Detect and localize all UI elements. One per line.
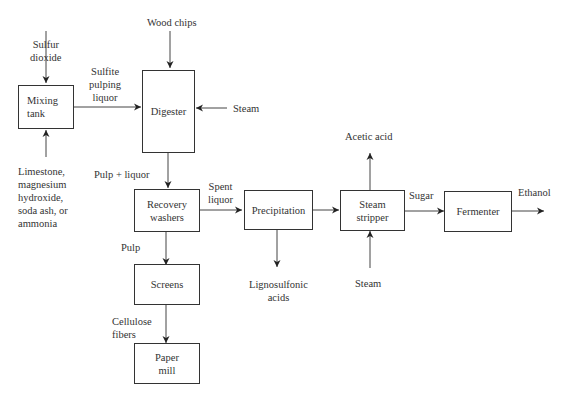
paper-mill-box: Paper mill (134, 343, 200, 384)
steam-stripper-input-label: Steam (355, 277, 381, 290)
steam-digester-label: Steam (233, 102, 259, 115)
digester-box: Digester (142, 70, 195, 153)
sulfite-liquor-label: Sulfite pulping liquor (89, 65, 121, 104)
pulp-label: Pulp (121, 241, 140, 254)
sugar-label: Sugar (409, 189, 434, 202)
precipitation-box: Precipitation (244, 190, 313, 230)
fermenter-box: Fermenter (444, 191, 512, 232)
recovery-washers-box: Recovery washers (134, 189, 200, 232)
spent-liquor-label: Spent liquor (208, 180, 233, 206)
cellulose-fibers-label: Cellulose fibers (112, 315, 152, 341)
pulp-liquor-label: Pulp + liquor (94, 168, 150, 181)
limestone-label: Limestone, magnesium hydroxide, soda ash… (18, 165, 68, 230)
wood-chips-label: Wood chips (147, 16, 197, 29)
mixing-tank-box: Mixing tank (18, 85, 74, 129)
screens-box: Screens (134, 264, 200, 305)
sulfur-dioxide-label: Sulfur dioxide (30, 38, 62, 64)
ethanol-label: Ethanol (518, 186, 551, 199)
acetic-acid-label: Acetic acid (345, 130, 393, 143)
lignosulfonic-acids-label: Lignosulfonic acids (249, 278, 308, 304)
steam-stripper-box: Steam stripper (340, 190, 405, 231)
